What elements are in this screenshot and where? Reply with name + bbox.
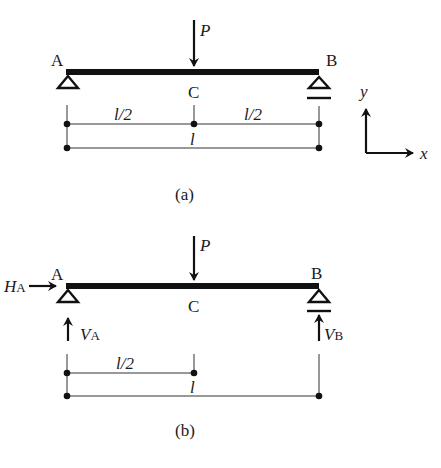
point-c-label: C	[188, 83, 199, 102]
dim-total-label: l	[190, 130, 195, 149]
reaction-ha-label: HA	[3, 277, 26, 296]
axis-x-label: x	[419, 144, 428, 163]
axis-y-label: y	[358, 82, 368, 101]
point-c-label: C	[188, 297, 199, 316]
support-b-label: B	[311, 264, 322, 283]
reaction-vb-label: VB	[324, 325, 343, 344]
roller-support-icon	[307, 77, 331, 98]
load-label: P	[199, 236, 210, 255]
pin-support-icon	[58, 290, 78, 302]
beam-diagram: P A B C l/2 l/2 l	[0, 0, 441, 468]
caption-b: (b)	[175, 421, 195, 440]
part-b: P A B C HA VA VB	[3, 236, 343, 440]
dim-total-label: l	[190, 378, 195, 397]
beam	[66, 69, 319, 75]
support-a-label: A	[51, 51, 64, 70]
dim-half-left-label: l/2	[114, 105, 132, 124]
load-label: P	[199, 21, 210, 40]
support-a-label: A	[51, 265, 64, 284]
pin-support-icon	[58, 76, 78, 88]
caption-a: (a)	[175, 185, 194, 204]
support-b-label: B	[326, 51, 337, 70]
roller-support-icon	[307, 290, 331, 311]
part-a: P A B C l/2 l/2 l	[51, 20, 428, 204]
dim-half-right-label: l/2	[244, 105, 262, 124]
dim-half-label: l/2	[116, 354, 134, 373]
reaction-va-label: VA	[80, 325, 100, 344]
beam	[66, 283, 319, 289]
xy-axes-icon	[366, 109, 413, 153]
